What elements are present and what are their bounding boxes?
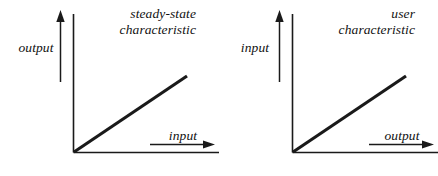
vertical-axis-label: output [10,40,62,55]
panel-title-line-1: user [219,6,415,22]
panel-title-line-1: steady-state [0,6,196,22]
panel-user: user characteristic input output [219,0,438,176]
panel-title: user characteristic [219,6,415,37]
vertical-axis-label: input [229,40,281,55]
panel-steady-state: steady-state characteristic output input [0,0,219,176]
horizontal-axis-label: output [371,128,433,143]
horizontal-axis-label: input [152,128,214,143]
panel-title: steady-state characteristic [0,6,196,37]
characteristic-curves-figure: steady-state characteristic output input… [0,0,438,176]
panel-title-line-2: characteristic [219,22,415,38]
panel-title-line-2: characteristic [0,22,196,38]
